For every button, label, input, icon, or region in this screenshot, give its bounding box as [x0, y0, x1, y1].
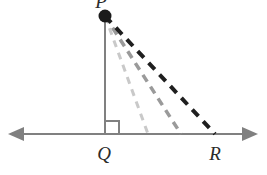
geometry-figure-container: P Q R	[0, 0, 267, 175]
dashed-ray-dark-pr	[105, 16, 215, 134]
right-arrowhead-icon	[242, 127, 258, 141]
baseline-group	[8, 127, 258, 141]
vertex-label-q: Q	[97, 143, 111, 164]
dashed-ray-light-gray	[105, 16, 148, 134]
vertex-label-r: R	[208, 143, 221, 164]
vertex-label-p: P	[94, 0, 107, 12]
geometry-diagram-svg: P Q R	[0, 0, 267, 175]
left-arrowhead-icon	[8, 127, 24, 141]
right-angle-marker-icon	[106, 121, 119, 134]
